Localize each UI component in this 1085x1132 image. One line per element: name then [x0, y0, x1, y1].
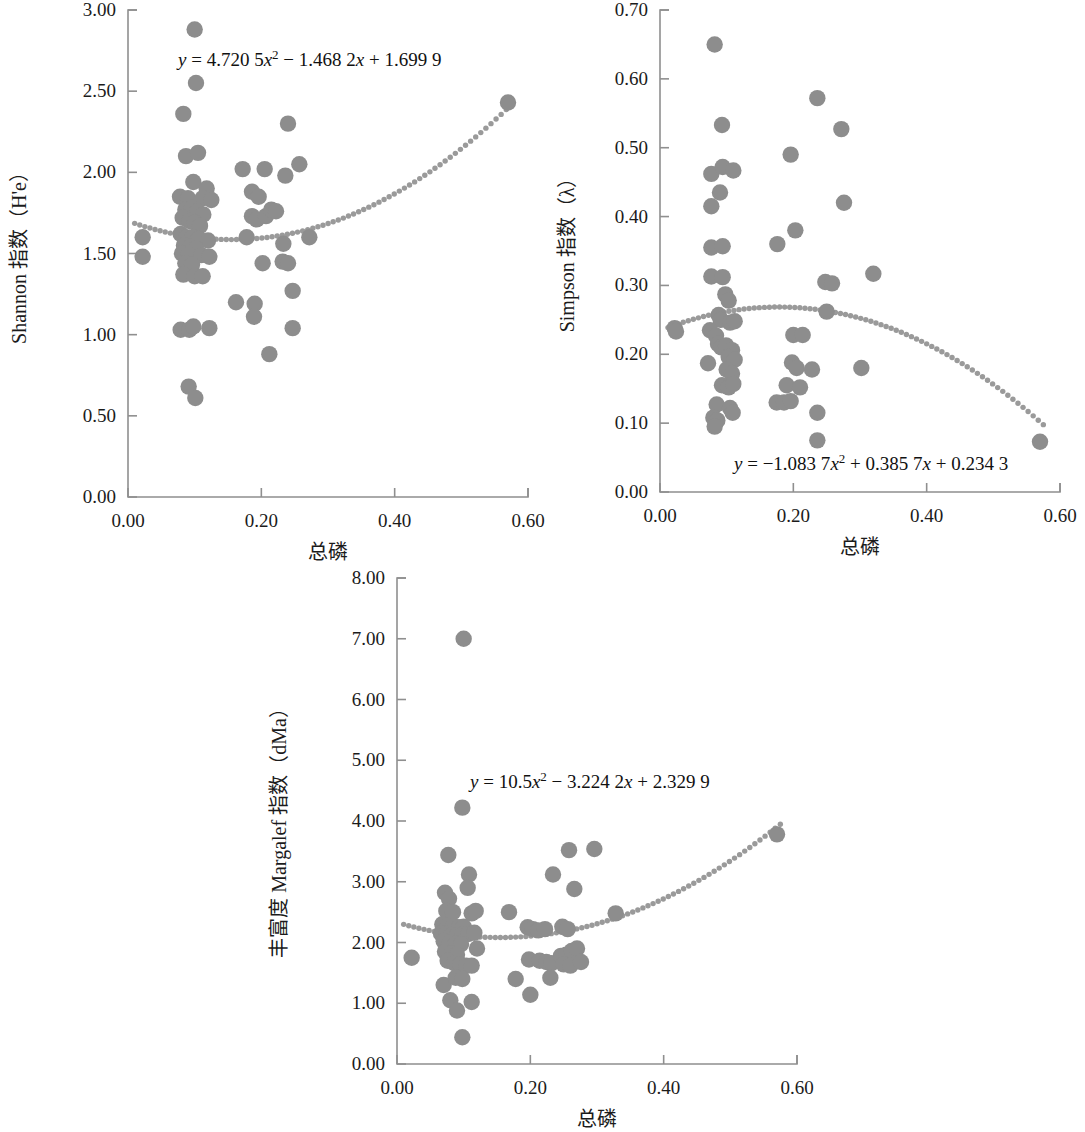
data-point: [175, 106, 191, 122]
y-tick-label: 2.50: [83, 80, 116, 101]
data-point: [440, 847, 456, 863]
x-tick-label: 0.00: [643, 505, 676, 526]
x-axis-ticks: 0.000.200.400.60: [111, 488, 544, 531]
data-point: [134, 249, 150, 265]
x-tick-label: 0.40: [378, 510, 411, 531]
trendline-dot: [361, 207, 366, 212]
y-tick-label: 0.50: [615, 137, 648, 158]
data-point: [454, 1029, 470, 1045]
trendline-dot: [746, 306, 751, 311]
data-point: [246, 309, 262, 325]
data-point: [256, 161, 272, 177]
trendline-dot: [924, 341, 929, 346]
trendline-dot: [488, 935, 493, 940]
y-tick-label: 3.00: [352, 871, 385, 892]
data-point: [254, 255, 270, 271]
trendline-dot: [397, 188, 402, 193]
data-point: [545, 866, 561, 882]
trendline-dot: [402, 185, 407, 190]
trendline-dot: [264, 235, 269, 240]
y-tick-label: 0.00: [352, 1053, 385, 1074]
y-tick-label: 0.20: [615, 343, 648, 364]
trendline-dot: [605, 918, 610, 923]
trendline-dot: [330, 219, 335, 224]
trendline-dot: [939, 349, 944, 354]
trendline-dot: [742, 848, 747, 853]
trendline-dot: [493, 116, 498, 121]
data-point: [194, 268, 210, 284]
trendline-dot: [463, 143, 468, 148]
trendline-dot: [152, 227, 157, 232]
trendline-dot: [426, 928, 431, 933]
trendline-dot: [676, 889, 681, 894]
x-axis-ticks: 0.000.200.400.60: [380, 1055, 813, 1098]
trendline-dot: [686, 318, 691, 323]
trendline-dot: [965, 364, 970, 369]
trendline-dot: [579, 925, 584, 930]
trendline-dot: [787, 305, 792, 310]
data-point: [275, 236, 291, 252]
trendline-dot: [594, 921, 599, 926]
data-point: [459, 880, 475, 896]
data-point: [188, 75, 204, 91]
data-point: [449, 1002, 465, 1018]
data-point: [201, 320, 217, 336]
trendline-dot: [356, 209, 361, 214]
trendline-dot: [671, 891, 676, 896]
trendline-dot: [132, 221, 137, 226]
scatter-chart-margalef: 0.001.002.003.004.005.006.007.008.000.00…: [262, 566, 822, 1132]
data-point: [500, 94, 516, 110]
data-point: [724, 405, 740, 421]
data-points: [403, 631, 785, 1046]
data-point: [668, 323, 684, 339]
trendline-dot: [412, 179, 417, 184]
data-point: [573, 954, 589, 970]
trendline-dot: [666, 894, 671, 899]
data-point: [501, 904, 517, 920]
trendline-dot: [351, 211, 356, 216]
trendline-dot: [934, 346, 939, 351]
trendline-dot: [1036, 418, 1041, 423]
regression-equation: y = 10.5x2 − 3.224 2x + 2.329 9: [468, 769, 710, 793]
trendline-dot: [929, 344, 934, 349]
data-points: [666, 36, 1048, 450]
data-point: [818, 303, 834, 319]
trendline-dot: [417, 176, 422, 181]
data-point: [787, 222, 803, 238]
trendline-dot: [853, 314, 858, 319]
trendline-dot: [599, 920, 604, 925]
trendline-dot: [421, 927, 426, 932]
data-point: [455, 631, 471, 647]
trendline-dot: [661, 896, 666, 901]
data-point: [794, 327, 810, 343]
trendline-dot: [904, 332, 909, 337]
trendline-dot: [812, 307, 817, 312]
trendline-dot: [493, 935, 498, 940]
data-point: [284, 320, 300, 336]
data-point: [833, 121, 849, 137]
trendline-dot: [883, 324, 888, 329]
trendline-dot: [411, 924, 416, 929]
x-axis-ticks: 0.000.200.400.60: [643, 483, 1076, 526]
data-point: [700, 355, 716, 371]
data-point: [201, 249, 217, 265]
trendline-dot: [975, 371, 980, 376]
y-tick-label: 2.00: [83, 161, 116, 182]
data-point: [714, 269, 730, 285]
trendline-dot: [949, 355, 954, 360]
data-point: [454, 971, 470, 987]
trendline-dot: [427, 169, 432, 174]
trendline-dot: [376, 199, 381, 204]
scatter-chart-simpson: 0.000.100.200.300.400.500.600.700.000.20…: [548, 0, 1085, 566]
trendline-dot: [503, 935, 508, 940]
data-point: [238, 229, 254, 245]
y-axis-ticks: 0.001.002.003.004.005.006.007.008.00: [352, 567, 406, 1074]
data-point: [809, 405, 825, 421]
y-tick-label: 8.00: [352, 567, 385, 588]
data-point: [782, 393, 798, 409]
trendline-dot: [722, 862, 727, 867]
trendline-dot: [645, 903, 650, 908]
trendline-dot: [706, 313, 711, 318]
data-point: [284, 283, 300, 299]
x-tick-label: 0.20: [777, 505, 810, 526]
